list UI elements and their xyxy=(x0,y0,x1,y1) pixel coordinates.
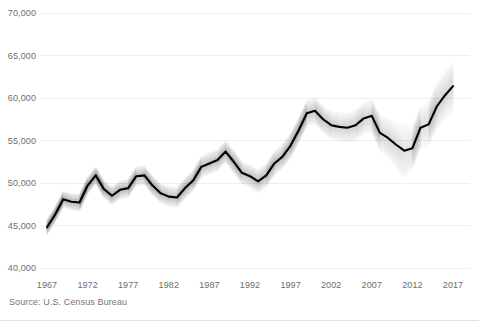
chart-root: 70,00065,00060,00055,00050,00045,00040,0… xyxy=(0,0,479,328)
x-axis-tick-label: 1967 xyxy=(37,280,57,290)
line-chart-canvas: 70,00065,00060,00055,00050,00045,00040,0… xyxy=(0,0,479,296)
y-axis-tick-label: 60,000 xyxy=(8,93,36,103)
x-axis-tick-label: 1992 xyxy=(240,280,260,290)
x-axis-tick-label: 2017 xyxy=(443,280,463,290)
y-axis-tick-label: 40,000 xyxy=(8,263,36,273)
figure-frame: 70,00065,00060,00055,00050,00045,00040,0… xyxy=(0,0,479,321)
y-axis-tick-label: 55,000 xyxy=(8,136,36,146)
x-axis-tick-label: 2012 xyxy=(402,280,422,290)
y-axis-tick-label: 65,000 xyxy=(8,51,36,61)
x-axis-tick-label: 1997 xyxy=(280,280,300,290)
y-axis-tick-label: 70,000 xyxy=(8,8,36,18)
y-axis-tick-labels: 70,00065,00060,00055,00050,00045,00040,0… xyxy=(8,8,36,273)
x-axis-tick-label: 1982 xyxy=(159,280,179,290)
y-axis-tick-label: 45,000 xyxy=(8,221,36,231)
uncertainty-band-group xyxy=(47,62,453,235)
x-axis-tick-labels: 1967197219771982198719921997200220072012… xyxy=(37,280,463,290)
x-axis-tick-label: 1977 xyxy=(118,280,138,290)
y-axis-tick-label: 50,000 xyxy=(8,178,36,188)
x-axis-tick-label: 1987 xyxy=(199,280,219,290)
source-note: Source: U.S. Census Bureau xyxy=(9,297,127,307)
uncertainty-band-stroke xyxy=(47,97,453,231)
x-axis-tick-label: 2002 xyxy=(321,280,341,290)
x-axis-tick-label: 2007 xyxy=(362,280,382,290)
x-axis-tick-label: 1972 xyxy=(77,280,97,290)
